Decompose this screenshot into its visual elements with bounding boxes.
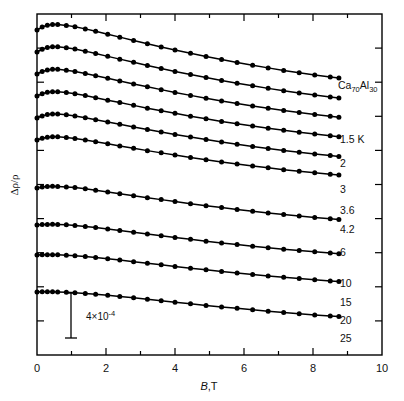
data-point [83,291,88,296]
data-point [50,222,55,227]
data-point [159,233,164,238]
data-point [117,57,122,62]
data-point [336,115,341,120]
data-point [336,173,341,178]
data-point [204,54,209,59]
data-point [266,245,271,250]
data-point [40,252,45,257]
data-point [281,310,286,315]
data-point [105,226,110,231]
data-point [35,94,40,99]
data-point [50,89,55,94]
data-point [45,90,50,95]
data-point [312,312,317,317]
data-point [281,275,286,280]
data-point [72,185,77,190]
data-point [64,90,69,95]
data-point [131,193,136,198]
data-point [266,165,271,170]
data-point [45,222,50,227]
data-point [250,63,255,68]
data-point [219,269,224,274]
data-point [83,115,88,120]
data-point [55,290,60,295]
data-point [328,314,333,319]
y-axis-label: Δρ/ρ [8,174,20,196]
data-point [117,294,122,299]
x-axis-unit: ,T [208,380,218,392]
data-point [35,138,40,143]
data-point [35,50,40,55]
data-point [64,290,69,295]
data-point [250,307,255,312]
data-point [312,112,317,117]
data-point [173,199,178,204]
data-point [312,249,317,254]
x-tick-label-2: 2 [103,362,109,374]
data-point [83,71,88,76]
scale-bar-exponent: -4 [109,309,116,318]
data-point [173,235,178,240]
data-point [64,23,69,28]
data-point [105,98,110,103]
data-point [266,65,271,70]
data-point [131,124,136,129]
data-point [64,45,69,50]
data-point [159,87,164,92]
temperature-label-36: 3.6 [340,204,355,216]
x-tick-label-6: 6 [241,362,247,374]
data-point [159,150,164,155]
data-point [188,301,193,306]
data-point [297,110,302,115]
data-point [159,66,164,71]
data-point [312,151,317,156]
data-point [281,212,286,217]
data-point [55,67,60,72]
data-point [93,73,98,78]
data-point [131,38,136,43]
data-point [173,90,178,95]
data-point [55,134,60,139]
data-point [45,45,50,50]
data-point [297,213,302,218]
data-point [35,253,40,258]
data-point [105,141,110,146]
scale-bar-mantissa: 4×10 [86,311,109,322]
data-point [117,122,122,127]
data-point [45,135,50,140]
data-point [328,95,333,100]
data-point [328,74,333,79]
data-point [145,261,150,266]
data-point [93,117,98,122]
data-point [250,144,255,149]
data-point [188,72,193,77]
data-point [235,271,240,276]
sample-element-1: Ca [338,79,352,91]
data-point [64,68,69,73]
data-point [35,72,40,77]
data-point [40,47,45,52]
data-point [219,240,224,245]
data-point [105,119,110,124]
data-point [35,186,40,191]
data-point [250,83,255,88]
data-point [173,300,178,305]
data-point [145,297,150,302]
data-point [188,201,193,206]
data-point [266,106,271,111]
data-point [83,254,88,259]
data-point [35,28,40,33]
data-point [219,139,224,144]
data-point [131,60,136,65]
data-point [281,108,286,113]
data-point [328,251,333,256]
data-point [219,159,224,164]
data-point [93,51,98,56]
data-point [173,264,178,269]
data-point [159,108,164,113]
data-point [188,237,193,242]
temperature-label-25: 25 [340,332,352,344]
temperature-label-6: 6 [340,246,346,258]
data-point [131,81,136,86]
data-point [204,267,209,272]
